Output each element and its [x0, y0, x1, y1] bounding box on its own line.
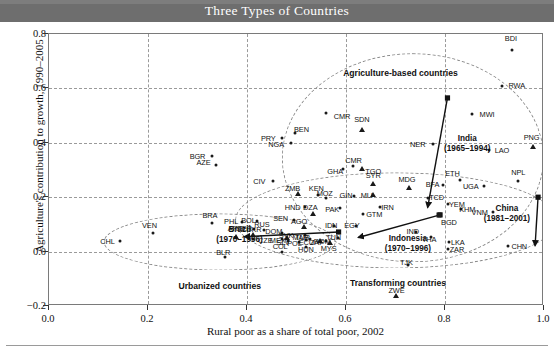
data-point-label: DOM [265, 227, 282, 236]
x-tick-mark [246, 305, 247, 310]
data-point-label: AZE [196, 157, 210, 166]
trajectory-label: India(1965–1994) [444, 134, 490, 154]
data-point-marker [471, 113, 474, 116]
y-axis-ticks: −0.20.00.20.40.60.8 [0, 33, 48, 305]
y-tick-label: 0.8 [0, 28, 46, 39]
data-point-marker [507, 245, 510, 248]
x-tick-label: 0.4 [239, 313, 252, 324]
data-point-label: GTM [366, 210, 382, 219]
x-tick-label: 0.0 [41, 313, 54, 324]
data-point-marker [353, 194, 356, 197]
data-point-label: SEN [273, 213, 288, 222]
data-point-marker [211, 222, 214, 225]
y-tick-label: 0.4 [0, 136, 46, 147]
x-tick-mark [444, 305, 445, 310]
data-point-label: PNG [524, 133, 540, 142]
data-point-label: HND [285, 202, 301, 211]
y-tick-label: 0.6 [0, 82, 46, 93]
y-tick-label: −0.2 [0, 300, 46, 311]
data-point-marker [359, 166, 365, 171]
data-point-marker [214, 164, 217, 167]
data-point-marker [310, 211, 316, 216]
trajectory-period: (1981–2001) [484, 214, 530, 224]
data-point-label: BFA [426, 180, 440, 189]
y-tick-label: 0.0 [0, 245, 46, 256]
data-point-marker [431, 142, 434, 145]
x-tick-mark [147, 305, 148, 310]
data-point-label: RWA [508, 81, 525, 90]
data-point-marker [362, 213, 365, 216]
data-point-label: VEN [142, 220, 157, 229]
data-point-label: LAO [495, 145, 510, 154]
x-tick-label: 0.2 [140, 313, 153, 324]
data-point-label: UGA [463, 181, 479, 190]
data-point-marker [210, 154, 213, 157]
trajectory-country-name: India [444, 134, 490, 144]
data-point-label: KHM [459, 205, 475, 214]
data-point-label: IRN [381, 203, 393, 212]
data-point-label: BEN [294, 125, 309, 134]
data-point-marker [325, 112, 328, 115]
trajectory-period: (1970–1996) [216, 235, 262, 245]
data-point-marker [118, 239, 121, 242]
data-point-label: TCD [429, 193, 444, 202]
data-point-marker [290, 142, 293, 145]
trajectory-label: Indonesia(1970–1996) [385, 234, 431, 254]
footer-divider [6, 345, 548, 346]
x-tick-label: 1.0 [536, 313, 549, 324]
data-point-marker [352, 165, 355, 168]
data-point-label: BDI [505, 34, 517, 43]
data-point-label: MDG [398, 174, 415, 183]
data-point-label: CMR [345, 155, 362, 164]
data-point-label: HUN [298, 244, 314, 253]
data-point-marker [151, 232, 154, 235]
data-point-label: MOZ [317, 189, 333, 198]
plot-area: BDIRWAMWICMRSDNPRYBENNGAPNGNERLAOBGRAZEG… [48, 33, 543, 305]
data-point-label: NER [410, 139, 425, 148]
data-point-marker [482, 184, 485, 187]
x-tick-mark [48, 305, 49, 310]
data-point-marker [441, 183, 444, 186]
data-point-marker [272, 180, 275, 183]
data-point-label: PAK [325, 204, 339, 213]
data-point-label: CIV [253, 177, 265, 186]
data-point-label: MWI [480, 109, 495, 118]
trajectory-period: (1965–1994) [444, 144, 490, 154]
data-point-label: BGD [441, 218, 457, 227]
data-point-label: AGO [291, 217, 307, 226]
data-point-label: NGA [268, 139, 284, 148]
data-point-label: CMR [334, 112, 351, 121]
group-label: Agriculture-based countries [343, 68, 458, 78]
data-point-label: ZMB [285, 184, 300, 193]
x-tick-mark [543, 305, 544, 310]
data-point-label: ETH [445, 169, 459, 178]
data-point-marker [530, 144, 536, 149]
data-point-label: MAR [292, 232, 308, 241]
data-point-label: CHN [511, 242, 527, 251]
data-point-marker [500, 84, 503, 87]
data-point-label: SYR [366, 170, 381, 179]
data-point-label: NPL [511, 168, 525, 177]
title-band: Three Types of Countries [0, 0, 554, 22]
x-axis-title: Rural poor as a share of total poor, 200… [48, 325, 543, 337]
data-point-marker [517, 180, 520, 183]
data-point-label: COL [273, 242, 288, 251]
data-point-label: DZA [303, 202, 317, 211]
trajectory-label: China(1981–2001) [484, 204, 530, 224]
data-point-label: GHA [327, 166, 343, 175]
data-point-marker [458, 179, 461, 182]
data-point-label: TJK [400, 257, 413, 266]
trajectory-country-name: China [484, 204, 530, 214]
x-tick-label: 0.6 [338, 313, 351, 324]
data-point-label: SDN [354, 115, 369, 124]
data-point-label: GIN [340, 191, 353, 200]
data-point-label: BRA [202, 210, 217, 219]
data-point-label: ROM [314, 236, 331, 245]
group-label: Transforming countries [350, 278, 446, 288]
data-point-label: MLI [361, 191, 373, 200]
data-point-marker [370, 181, 376, 186]
x-tick-label: 0.8 [437, 313, 450, 324]
data-point-marker [359, 127, 365, 132]
x-tick-mark [345, 305, 346, 310]
trajectory-country-name: Indonesia [385, 234, 431, 244]
